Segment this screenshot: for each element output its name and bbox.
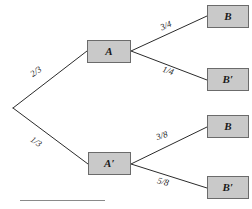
branch-root-to-Ap — [13, 108, 88, 164]
node-label-B-prime-upper: B′ — [223, 74, 234, 85]
node-label-B-lower: B — [224, 121, 232, 132]
footer-rule — [20, 200, 105, 201]
node-label-B-upper: B — [224, 11, 232, 22]
node-box-A-prime: A′ — [88, 152, 131, 175]
node-box-B-upper: B — [207, 5, 249, 28]
node-box-B-prime-upper: B′ — [207, 68, 249, 91]
branch-Ap-to-Bprime — [131, 164, 207, 188]
node-box-A: A — [87, 40, 131, 63]
node-label-A-prime: A′ — [104, 158, 115, 169]
branch-Ap-to-B — [131, 127, 207, 164]
node-box-B-prime-lower: B′ — [207, 176, 249, 199]
node-box-B-lower: B — [207, 115, 249, 138]
node-label-A: A — [105, 46, 113, 57]
node-label-B-prime-lower: B′ — [223, 182, 234, 193]
probability-tree-diagram: A A′ B B′ B B′ 2/3 1/3 3/4 1/4 3/8 5/8 — [0, 0, 252, 209]
branch-root-to-A — [13, 51, 87, 108]
